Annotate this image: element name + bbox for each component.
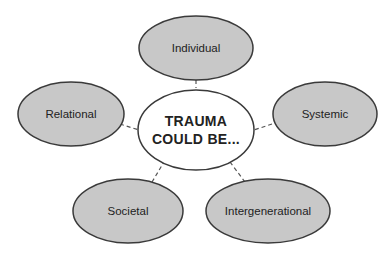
node-label-individual: Individual (172, 42, 221, 54)
node-label-relational: Relational (45, 108, 96, 120)
connector-systemic (254, 124, 272, 130)
connector-intergenerational (230, 162, 245, 182)
center-label: TRAUMA COULD BE... (152, 112, 240, 148)
node-label-societal: Societal (108, 205, 149, 217)
node-label-systemic: Systemic (302, 108, 349, 120)
connector-societal (152, 162, 164, 182)
node-label-intergenerational: Intergenerational (225, 205, 311, 217)
center-label-line2: COULD BE... (152, 130, 240, 148)
connector-relational (120, 124, 139, 130)
center-label-line1: TRAUMA (152, 112, 240, 130)
